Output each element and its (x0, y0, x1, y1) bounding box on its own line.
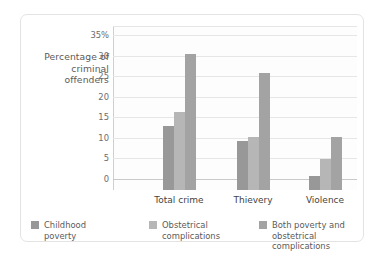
bar (331, 137, 342, 190)
legend-item: Obstetrical complications (149, 220, 220, 241)
y-tick-5: 5 (69, 153, 109, 163)
bar (237, 141, 248, 190)
legend-item: Childhood poverty (31, 220, 86, 241)
bar-group (305, 37, 345, 190)
legend-label: Both poverty and obstetrical complicatio… (272, 220, 361, 252)
bar-group (233, 37, 273, 190)
legend-swatch (259, 221, 267, 229)
y-tick-10: 10 (69, 133, 109, 143)
y-tick-15: 15 (69, 112, 109, 122)
bar (174, 112, 185, 190)
bar (185, 54, 196, 190)
x-label-total-crime: Total crime (154, 195, 203, 205)
y-tick-0: 0 (69, 174, 109, 184)
legend-item: Both poverty and obstetrical complicatio… (259, 220, 361, 252)
bar (320, 159, 331, 190)
gridline-top (113, 26, 357, 27)
x-label-thievery: Thievery (233, 195, 272, 205)
plot-area: 35%302520151050 (113, 26, 357, 190)
x-label-violence: Violence (306, 195, 344, 205)
legend-swatch (31, 221, 39, 229)
legend-label: Childhood poverty (44, 220, 86, 241)
bar-groups (113, 37, 357, 190)
y-tick-35: 35% (69, 30, 109, 40)
bar (259, 73, 270, 190)
legend-label: Obstetrical complications (162, 220, 220, 241)
y-tick-30: 30 (69, 51, 109, 61)
bar (248, 137, 259, 190)
bar (163, 126, 174, 190)
y-tick-25: 25 (69, 71, 109, 81)
gridline-35 (113, 35, 357, 36)
bar (309, 176, 320, 190)
legend-swatch (149, 221, 157, 229)
chart-card: Percentage of criminal offenders 35%3025… (20, 14, 364, 242)
y-tick-20: 20 (69, 92, 109, 102)
bar-group (159, 37, 199, 190)
